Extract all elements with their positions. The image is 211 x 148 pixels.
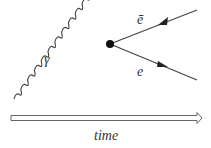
photon-label: γ — [44, 52, 50, 67]
electron-arrow-icon — [157, 61, 168, 67]
feynman-diagram: γ ē e time — [0, 0, 211, 148]
electron-label: e — [137, 64, 143, 79]
electron-line — [110, 44, 197, 80]
positron-label: ē — [137, 12, 144, 27]
positron-arrow-icon — [158, 17, 168, 25]
time-arrow — [11, 113, 202, 124]
photon-wavy-line — [14, 0, 108, 99]
time-label: time — [94, 128, 118, 143]
positron-line — [110, 10, 197, 44]
vertex-dot — [106, 40, 114, 48]
